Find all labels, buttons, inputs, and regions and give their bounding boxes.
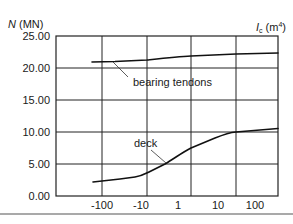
leader-line-bearing-tendons	[113, 62, 128, 77]
x-tick: 10	[212, 199, 224, 211]
x-tick-labels: -100 -10 1 10 100	[91, 199, 264, 211]
x-axis-title: Ic (m4)	[256, 21, 286, 34]
y-tick: 25.00	[22, 30, 50, 42]
y-tick: 20.00	[22, 62, 50, 74]
y-tick: 15.00	[22, 94, 50, 106]
line-chart: N (MN) Ic (m4) 0.00 5.00 10.00 15.00 20.…	[0, 0, 293, 224]
y-axis-title: N (MN)	[8, 18, 43, 30]
y-tick: 10.00	[22, 126, 50, 138]
x-tick: -100	[91, 199, 113, 211]
leader-line-deck	[151, 150, 166, 163]
annotation-bearing-tendons: bearing tendons	[133, 76, 212, 88]
annotation-deck: deck	[134, 137, 158, 149]
x-tick: 100	[246, 199, 264, 211]
y-tick-labels: 0.00 5.00 10.00 15.00 20.00 25.00	[22, 30, 50, 202]
y-tick: 0.00	[29, 190, 50, 202]
series-bearing-tendons	[92, 53, 278, 62]
plot-frame	[56, 36, 278, 196]
x-tick: -10	[133, 199, 149, 211]
y-tick: 5.00	[29, 158, 50, 170]
vertical-gridlines	[102, 36, 236, 196]
x-tick: 1	[175, 199, 181, 211]
series-deck	[93, 129, 278, 183]
